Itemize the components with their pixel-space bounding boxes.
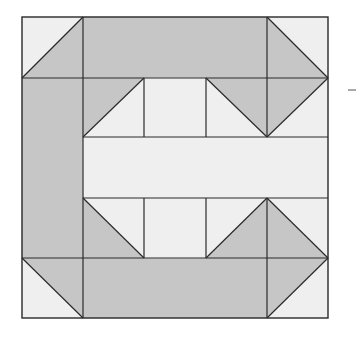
bottom-bar-patch bbox=[83, 258, 267, 318]
quilt-patches bbox=[22, 17, 328, 318]
inner-top-mid-patch bbox=[144, 78, 206, 137]
inner-bot-mid-patch bbox=[144, 198, 206, 258]
left-bar-patch bbox=[22, 78, 83, 258]
top-bar-patch bbox=[83, 17, 267, 78]
center-bar-patch bbox=[83, 137, 328, 198]
quilt-block-diagram bbox=[0, 0, 357, 344]
